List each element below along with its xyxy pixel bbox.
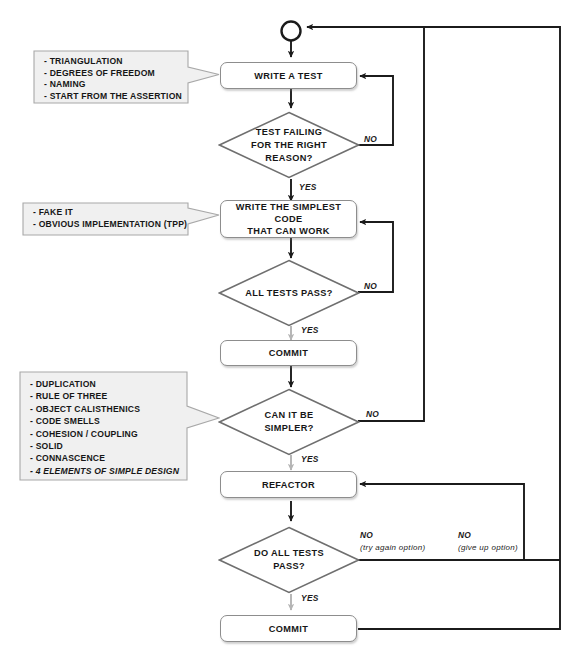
callout-item: - DUPLICATION [30,378,190,390]
edge-label-all-tests-pass-yes: YES [301,325,319,335]
node-write-a-test[interactable]: WRITE A TEST [220,62,357,89]
callout-item: - OBJECT CALISTHENICS [30,403,190,415]
callout-item: - RULE OF THREE [30,390,190,402]
callout-simpler-tips: - DUPLICATION - RULE OF THREE - OBJECT C… [19,371,220,481]
edge-label-do-all-tests-pass-no-give-up: NO [458,530,471,540]
flowchart-canvas: WRITE A TEST WRITE THE SIMPLEST CODE THA… [0,0,584,661]
edge-label-can-it-be-simpler-yes: YES [301,454,319,464]
decision-all-tests-pass[interactable]: ALL TESTS PASS? [218,259,360,327]
decision-do-all-tests-pass-line1: DO ALL TESTS [254,547,324,560]
decision-test-failing-line2: FOR THE RIGHT [251,139,327,152]
edge-label-can-it-be-simpler-no: NO [366,409,379,419]
node-commit-first-label: COMMIT [269,347,308,359]
callout-item: - DEGREES OF FREEDOM [44,68,190,80]
callout-write-a-test-tips: - TRIANGULATION - DEGREES OF FREEDOM - N… [33,50,220,104]
callout-item: - OBVIOUS IMPLEMENTATION (TPP) [33,219,190,231]
edge-label-test-failing-yes: YES [299,182,317,192]
node-commit-final-label: COMMIT [269,623,308,635]
callout-simplest-code-items: - FAKE IT - OBVIOUS IMPLEMENTATION (TPP) [33,207,190,230]
callout-simplest-code-tips: - FAKE IT - OBVIOUS IMPLEMENTATION (TPP) [22,202,220,236]
callout-item: - START FROM THE ASSERTION [44,91,190,103]
start-circle [282,22,301,41]
edge-label-test-failing-no: NO [364,134,377,144]
decision-can-it-be-simpler-line2: SIMPLER? [264,422,313,435]
callout-item: - TRIANGULATION [44,56,190,68]
node-commit-final[interactable]: COMMIT [220,615,357,642]
edge-label-do-all-tests-pass-no-try-again: NO [360,530,373,540]
callout-item: - CODE SMELLS [30,415,190,427]
node-write-simplest-code-line1: WRITE THE SIMPLEST CODE [221,201,356,225]
node-write-simplest-code-line2: THAT CAN WORK [247,225,329,237]
decision-do-all-tests-pass[interactable]: DO ALL TESTS PASS? [218,526,360,594]
decision-do-all-tests-pass-text: DO ALL TESTS PASS? [254,547,324,573]
decision-can-it-be-simpler-text: CAN IT BE SIMPLER? [264,409,313,435]
decision-all-tests-pass-text: ALL TESTS PASS? [245,287,333,300]
node-refactor-label: REFACTOR [262,479,315,491]
edge-label-do-all-tests-pass-yes: YES [301,593,319,603]
callout-item: - FAKE IT [33,207,190,219]
decision-test-failing-line1: TEST FAILING [251,126,327,139]
decision-test-failing[interactable]: TEST FAILING FOR THE RIGHT REASON? [218,111,360,179]
node-write-a-test-label: WRITE A TEST [254,70,322,82]
callout-item: - CONNASCENCE [30,452,190,464]
callout-item: - COHESION / COUPLING [30,428,190,440]
node-write-simplest-code[interactable]: WRITE THE SIMPLEST CODE THAT CAN WORK [220,200,357,238]
decision-test-failing-line3: REASON? [251,152,327,165]
edge-label-do-all-tests-pass-no-try-again-sub: (try again option) [360,543,425,552]
node-commit-first[interactable]: COMMIT [220,340,357,366]
decision-can-it-be-simpler-line1: CAN IT BE [264,409,313,422]
decision-all-tests-pass-line1: ALL TESTS PASS? [245,287,333,300]
callout-simpler-items: - DUPLICATION - RULE OF THREE - OBJECT C… [30,378,190,477]
node-refactor[interactable]: REFACTOR [220,471,357,498]
callout-write-a-test-items: - TRIANGULATION - DEGREES OF FREEDOM - N… [44,56,190,102]
decision-can-it-be-simpler[interactable]: CAN IT BE SIMPLER? [218,388,360,456]
callout-item: - SOLID [30,440,190,452]
callout-item-emphasis: - 4 ELEMENTS OF SIMPLE DESIGN [30,465,190,477]
edge-label-do-all-tests-pass-no-give-up-sub: (give up option) [458,543,518,552]
edge-label-all-tests-pass-no: NO [364,281,377,291]
decision-do-all-tests-pass-line2: PASS? [254,560,324,573]
decision-test-failing-text: TEST FAILING FOR THE RIGHT REASON? [251,126,327,165]
callout-item: - NAMING [44,79,190,91]
